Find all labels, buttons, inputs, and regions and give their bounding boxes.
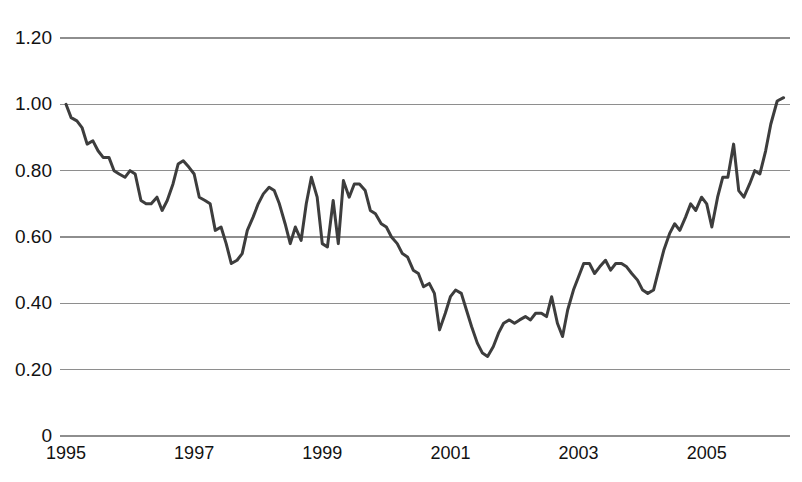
y-axis-tick-label: 0.20 [15, 359, 52, 380]
x-axis-tick-label: 1999 [302, 443, 342, 463]
chart-container: 00.200.400.600.801.001.20 19951997199920… [0, 0, 802, 482]
x-axis-tick-label: 2003 [559, 443, 599, 463]
y-axis-tick-label: 1.20 [15, 27, 52, 48]
x-axis-tick-label: 1997 [174, 443, 214, 463]
x-axis-tick-label: 2001 [430, 443, 470, 463]
y-axis-tick-label: 0.60 [15, 226, 52, 247]
chart-background [0, 0, 802, 482]
line-chart: 00.200.400.600.801.001.20 19951997199920… [0, 0, 802, 482]
x-axis-tick-label: 1995 [46, 443, 86, 463]
y-axis-tick-label: 0.40 [15, 292, 52, 313]
x-axis-tick-label: 2005 [687, 443, 727, 463]
y-axis-tick-label: 0.80 [15, 160, 52, 181]
y-axis-tick-label: 1.00 [15, 93, 52, 114]
